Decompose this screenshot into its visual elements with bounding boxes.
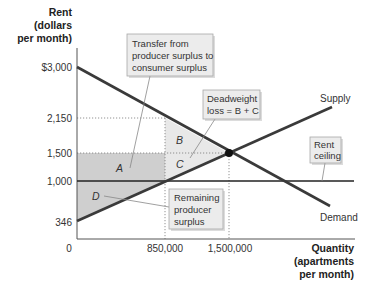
y-tick-2150: 2,150 [47,113,72,124]
rent-control-chart: Rent (dollars per month) $3,000 2,150 1,… [0,0,375,296]
callout-ceiling-line2: ceiling [314,150,341,161]
y-tick-3000: $3,000 [41,62,72,73]
y-tick-1000: 1,000 [47,176,72,187]
callout-remaining-line3: surplus [174,216,205,227]
callout-deadweight-line2: loss = B + C [207,105,259,116]
equilibrium-point [225,149,233,157]
y-axis-title-line2: (dollars [34,19,72,31]
callout-remaining-line1: Remaining [174,192,219,203]
callout-deadweight-line1: Deadweight [207,93,258,104]
x-axis-title-line2: (apartments [294,255,354,267]
y-axis-title-line1: Rent [49,6,73,18]
callout-rent-ceiling: Rent ceiling [310,137,343,165]
y-tick-1500: 1,500 [47,148,72,159]
region-c-label: C [176,158,184,170]
y-tick-346: 346 [55,217,72,228]
callout-remaining-line2: producer [174,204,212,215]
region-b-label: B [176,134,183,146]
demand-label: Demand [320,212,358,223]
callout-transfer-line1: Transfer from [132,38,189,49]
callout-deadweight: Deadweight loss = B + C [203,90,262,121]
callout-transfer-line2: producer surplus to [132,50,213,61]
region-d-label: D [92,190,100,202]
x-tick-850000: 850,000 [147,243,184,254]
x-tick-1500000: 1,500,000 [208,243,253,254]
y-axis-title-line3: per month) [17,32,72,44]
x-axis-title-line1: Quantity [311,242,354,254]
x-tick-0: 0 [66,243,72,254]
region-a-label: A [115,162,123,174]
callout-transfer: Transfer from producer surplus to consum… [127,34,215,78]
callout-remaining: Remaining producer surplus [169,189,225,231]
x-axis-title-line3: per month) [299,268,354,280]
callout-ceiling-line1: Rent [314,139,334,150]
supply-label: Supply [320,93,351,104]
callout-transfer-line3: consumer surplus [132,62,207,73]
